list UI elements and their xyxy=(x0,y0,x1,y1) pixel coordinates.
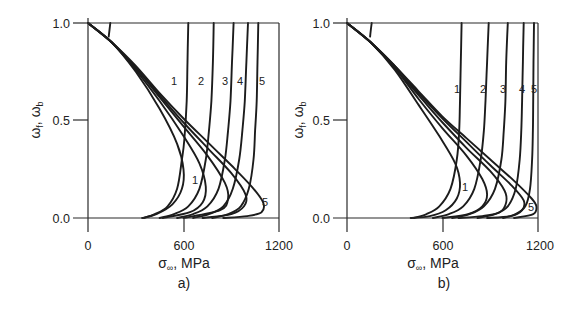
panel-b-xtick-label: 0 xyxy=(344,239,351,253)
panel-b-xtick-label: 600 xyxy=(433,239,454,253)
panel-b-ytick-label: 1.0 xyxy=(313,17,330,31)
panel-a-xtick-label: 1200 xyxy=(265,239,293,253)
panel-a-xtick-label: 600 xyxy=(174,239,195,253)
panel-b-curves xyxy=(347,23,537,218)
curve-number-label: 1 xyxy=(171,75,177,87)
curve-line xyxy=(503,23,534,218)
curve-number-label: 5 xyxy=(531,83,537,95)
curve-line xyxy=(88,23,264,218)
curve-number-label: 3 xyxy=(222,75,228,87)
curve-number-label: 4 xyxy=(519,83,525,95)
curve-number-label: 5 xyxy=(528,201,534,213)
curve-line xyxy=(88,23,184,218)
figure: 1.0 0.5 0.0 0 600 1200 σ∞, MPa a) ωf, ωb… xyxy=(0,0,576,309)
panel-b-xtick-label: 1200 xyxy=(526,239,554,253)
curve-number-label: 4 xyxy=(237,75,243,87)
panel-b-ytick-label: 0.5 xyxy=(313,114,330,128)
panel-a-ytick-label: 1.0 xyxy=(53,17,70,31)
curve-number-label: 1 xyxy=(192,174,198,186)
curve-number-label: 5 xyxy=(259,75,265,87)
curve-line xyxy=(109,23,111,37)
panel-a-ytick-label: 0.0 xyxy=(53,212,70,226)
panel-b-y-axis-title: ωf, ωb xyxy=(290,101,308,138)
panel-a-ytick-label: 0.5 xyxy=(53,114,70,128)
curve-number-label: 1 xyxy=(454,83,460,95)
curve-number-label: 2 xyxy=(198,75,204,87)
panel-b-label: b) xyxy=(438,275,450,291)
curve-number-label: 3 xyxy=(500,83,506,95)
curve-line xyxy=(370,23,372,37)
panel-b-x-axis-title: σ∞, MPa xyxy=(407,255,459,273)
curve-line xyxy=(347,23,460,218)
curve-line xyxy=(88,23,228,218)
curve-number-label: 2 xyxy=(480,83,486,95)
curve-line xyxy=(414,23,462,218)
panel-b-chart: 1.0 0.5 0.0 0 600 1200 σ∞, MPa b) ωf, ωb… xyxy=(290,17,554,291)
curve-number-label: 1 xyxy=(462,181,468,193)
panel-b-ytick-label: 0.0 xyxy=(313,212,330,226)
panel-a-label: a) xyxy=(178,275,190,291)
panel-a-y-axis-title: ωf, ωb xyxy=(27,101,45,138)
panel-a-curves xyxy=(88,23,264,218)
curve-line xyxy=(347,23,507,218)
curve-number-label: 5 xyxy=(262,196,268,208)
panel-a-chart: 1.0 0.5 0.0 0 600 1200 σ∞, MPa a) ωf, ωb… xyxy=(27,17,293,291)
panel-a-xtick-label: 0 xyxy=(85,239,92,253)
curve-line xyxy=(88,23,247,218)
curve-line xyxy=(193,23,248,218)
panel-a-x-axis-title: σ∞, MPa xyxy=(158,255,210,273)
